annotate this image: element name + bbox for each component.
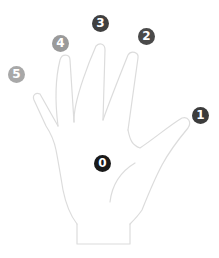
label-palm-0: 0 (94, 155, 111, 172)
label-pinky-5: 5 (8, 66, 25, 83)
label-ring-4: 4 (52, 35, 69, 52)
label-index-2: 2 (138, 28, 155, 45)
label-thumb-1: 1 (192, 107, 209, 124)
hand-outline (0, 0, 219, 258)
label-middle-3: 3 (92, 15, 109, 32)
